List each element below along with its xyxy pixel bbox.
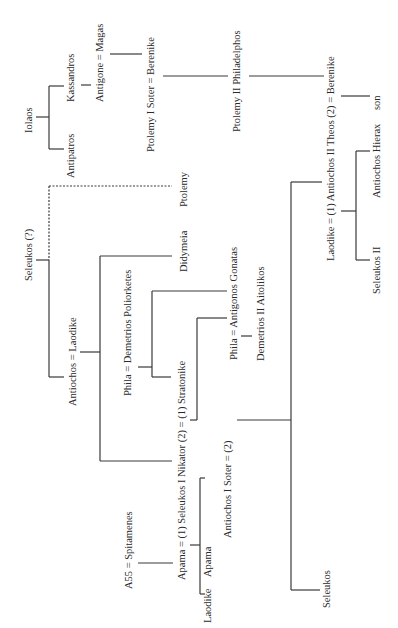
person-seleukos-q: Seleukos (?)	[24, 229, 35, 281]
person-ptolemy: Ptolemy	[179, 172, 190, 207]
person-laodike-child: Laodike	[203, 589, 214, 623]
person-apama-child: Apama	[203, 547, 214, 577]
person-antiochos-laodike: Antiochos = Laodike	[68, 317, 79, 406]
family-tree-diagram: Iolaos Antipatros Kassandros Antigone = …	[0, 0, 398, 628]
person-kassandros: Kassandros	[66, 54, 77, 102]
person-antiochos-ii: Laodike = (1) Antiochos II Theos (2) = B…	[326, 56, 337, 261]
person-son: son	[372, 95, 383, 110]
person-antiochos-hierax: Antiochos Hierax	[372, 124, 383, 198]
person-ptolemy-i: Ptolemy I Soter = Berenike	[146, 37, 157, 152]
person-iolaos: Iolaos	[24, 107, 35, 133]
tree-connector-lines	[0, 0, 398, 628]
person-antipatros: Antipatros	[66, 134, 77, 178]
person-demetrios-ii: Demetrios II Aitolikos	[256, 267, 267, 362]
person-seleukos-i: Apama = (1) Seleukos I Nikator (2) = (1)…	[177, 361, 188, 580]
person-a55-spitamenes: A55 = Spitamenes	[124, 511, 135, 589]
person-seleukos-child: Seleukos	[322, 570, 333, 608]
person-antigone-magas: Antigone = Magas	[95, 24, 106, 102]
person-phila-demetrios: Phila = Demetrios Poliorketes	[123, 270, 134, 396]
person-didymeia: Didymeia	[179, 231, 190, 272]
person-seleukos-ii: Seleukos II	[372, 246, 383, 294]
person-antiochos-i: Antiochos I Soter = (2)	[223, 441, 234, 539]
person-ptolemy-ii: Ptolemy II Philadelphos	[232, 31, 243, 133]
person-phila-antigonos: Phila = Antigonos Gonatas	[229, 247, 240, 360]
